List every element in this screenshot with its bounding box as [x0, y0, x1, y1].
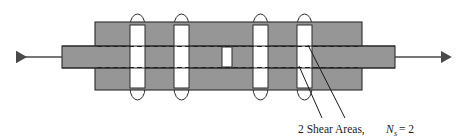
rivet-shank-3 — [253, 25, 268, 88]
rivet-shank-1 — [130, 25, 145, 88]
butt-gap-block — [222, 47, 232, 67]
rivet-shank-2 — [174, 25, 189, 88]
figure-canvas: 2 Shear Areas, N s = 2 — [0, 0, 458, 140]
caption-subscript: s — [394, 129, 397, 138]
riveted-joint-diagram: 2 Shear Areas, N s = 2 — [0, 0, 458, 140]
caption-equals: = 2 — [399, 123, 414, 135]
shear-area-caption: 2 Shear Areas, N s = 2 — [298, 123, 414, 138]
caption-prefix: 2 Shear Areas, — [298, 123, 365, 136]
